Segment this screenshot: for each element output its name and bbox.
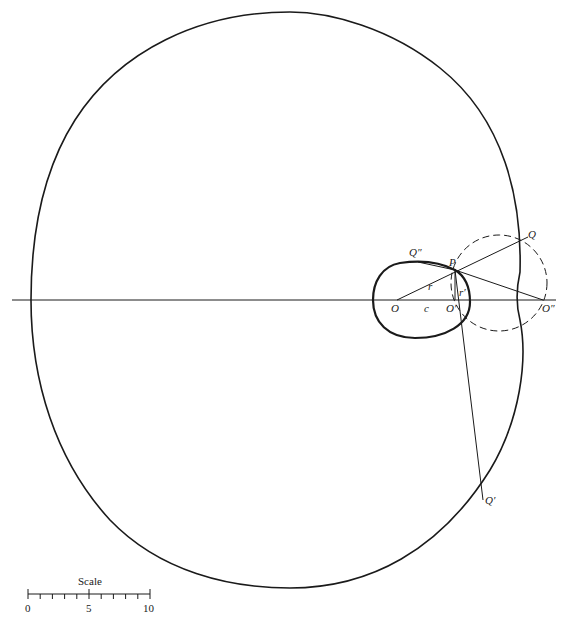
- label-c: c: [424, 302, 429, 314]
- label-r-prime: r′: [459, 286, 466, 298]
- label-O: O: [391, 302, 399, 314]
- scale-tick-0: 0: [25, 602, 31, 614]
- scale-tick-10: 10: [143, 602, 155, 614]
- label-r: r: [428, 280, 433, 292]
- label-O-double-prime: O″: [542, 302, 555, 314]
- label-Q: Q: [528, 228, 536, 240]
- label-P: P: [448, 256, 456, 268]
- label-Q-double-prime: Q″: [409, 246, 422, 258]
- label-Q-prime: Q′: [485, 494, 496, 506]
- scale-tick-5: 5: [86, 602, 92, 614]
- label-O-prime: O′: [446, 302, 457, 314]
- scale-bar: Scale 0 5 10: [25, 575, 155, 614]
- diagram-canvas: O c r O′ r′ P Q″ Q O″ Q′ Scale 0 5 10: [0, 0, 574, 626]
- scale-title: Scale: [78, 575, 102, 587]
